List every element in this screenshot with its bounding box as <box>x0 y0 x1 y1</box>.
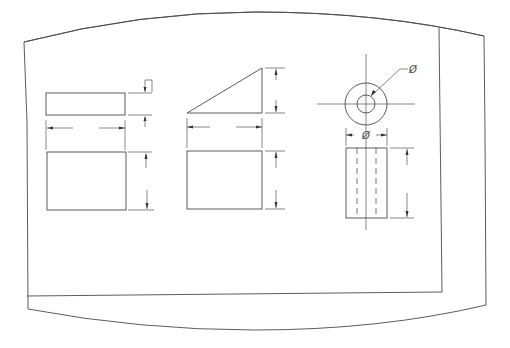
arrow-icon <box>144 116 147 121</box>
arrow-icon <box>371 90 376 96</box>
arrow-icon <box>275 106 278 112</box>
arrow-icon <box>406 149 409 155</box>
arrow-icon <box>346 134 352 137</box>
diameter-width-label: Ø <box>361 130 371 141</box>
block-front-view <box>47 152 126 210</box>
title-block-vertical <box>439 28 442 292</box>
cylinder-front-view <box>346 148 387 218</box>
arrow-icon <box>256 126 262 129</box>
arrow-icon <box>146 203 149 209</box>
diameter-leader-label: Ø <box>408 64 418 75</box>
arrow-icon <box>144 87 147 92</box>
view-hollow-cylinder: Ø Ø <box>317 54 418 230</box>
view-rectangular-block <box>46 80 154 210</box>
arrow-icon <box>145 153 148 159</box>
arrow-icon <box>47 127 53 130</box>
title-block-horizontal <box>27 292 442 296</box>
sheet-outline <box>24 12 486 330</box>
arrow-icon <box>406 211 409 217</box>
arrow-icon <box>119 127 125 130</box>
view-wedge <box>187 68 285 209</box>
arrow-icon <box>275 202 278 208</box>
drawing-canvas: Ø Ø <box>0 0 510 348</box>
sheet-top-curve <box>24 12 484 42</box>
wedge-front-view <box>187 151 262 209</box>
wedge-top-view <box>187 68 262 113</box>
arrow-icon <box>381 134 387 137</box>
block-top-view <box>46 93 125 115</box>
arrow-icon <box>275 152 278 158</box>
arrow-icon <box>187 126 193 129</box>
arrow-icon <box>275 69 278 75</box>
